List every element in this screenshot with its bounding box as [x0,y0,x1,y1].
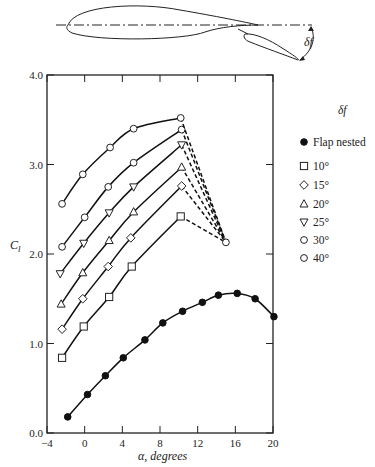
legend-item: 15° [300,179,330,191]
legend-item: 40° [301,252,330,264]
flap-element [244,34,298,60]
legend-label: 10° [313,160,330,172]
plot-frame [47,75,273,433]
legend-title: δf [338,104,348,117]
legend-label: 25° [313,216,330,228]
y-tick-label: 4.0 [29,69,43,81]
legend-label: 20° [313,198,330,210]
series-20- [57,163,226,307]
x-tick-label: 0 [82,437,88,449]
legend-label: 30° [313,234,330,246]
legend-item: 10° [300,160,329,172]
x-axis-title: α, degrees [138,449,188,463]
data-series [56,115,277,421]
x-tick-label: 20 [268,437,280,449]
x-tick-label: 8 [157,437,163,449]
y-axis-title: Cl [10,238,21,254]
y-tick-label: 2.0 [29,248,43,260]
x-tick-label: 16 [230,437,242,449]
legend-item: Flap nested [301,136,366,149]
legend-label: 40° [313,252,330,264]
arc-arrow-top [308,26,314,31]
series-flap-nested [64,290,277,420]
x-tick-label: 12 [192,437,203,449]
x-tick-label: 4 [120,437,126,449]
axis-tick-labels: −40481216200.01.02.03.04.0 [29,69,279,449]
axis-ticks [47,75,273,433]
airfoil-diagram [56,6,314,61]
legend: δfFlap nested10°15°20°25°30°40° [300,104,366,264]
y-tick-label: 0.0 [29,427,43,439]
legend-item: 30° [301,234,330,246]
legend-item: 25° [300,216,330,228]
flap-leader [238,29,248,34]
legend-label: 15° [313,179,330,191]
y-tick-label: 1.0 [29,338,43,350]
y-tick-label: 3.0 [29,159,43,171]
legend-item: 20° [300,198,330,210]
lift-coefficient-chart: δf −40481216200.01.02.03.04.0 Cl α, degr… [0,0,375,467]
airfoil-main-element [67,6,258,39]
legend-label: Flap nested [313,136,366,149]
